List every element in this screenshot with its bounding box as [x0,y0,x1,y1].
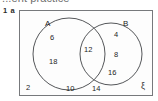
cut-off-header: ...ent practice [0,0,158,6]
question-label: 1 a [3,6,15,15]
region-outside-value-2: 2 [26,84,30,92]
region-intersection-value-12: 12 [84,46,92,54]
region-outside-value-14: 14 [92,85,100,93]
set-b-label: B [123,20,128,28]
region-outside-value-10: 10 [66,85,74,93]
header-text: ...ent practice [2,0,70,4]
scan-edge [0,98,158,101]
region-b-only-value-4: 4 [114,31,118,39]
set-a-label: A [45,20,50,28]
region-a-only-value-18: 18 [49,58,57,66]
region-b-only-value-8: 8 [114,51,118,59]
worksheet-page: ...ent practice 1 a A B 6 18 12 4 8 16 2… [0,0,158,101]
region-b-only-value-16: 16 [108,69,116,77]
region-a-only-value-6: 6 [50,34,54,42]
universal-set-symbol: ξ [141,82,145,91]
circle-set-a [33,18,105,90]
